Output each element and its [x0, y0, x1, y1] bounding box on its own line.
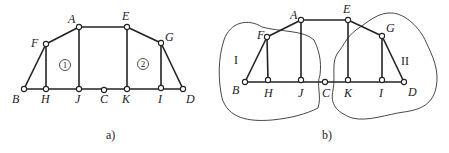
joint-I	[379, 77, 384, 82]
member-FA	[46, 27, 79, 44]
joint-B	[21, 86, 26, 91]
joint-label-K: K	[121, 92, 131, 106]
joint-label-J: J	[298, 86, 304, 100]
joint-label-I: I	[157, 92, 163, 106]
joint-label-H: H	[40, 92, 51, 106]
region-label-I: I	[234, 53, 238, 67]
joint-J	[76, 86, 81, 91]
joint-F	[264, 34, 269, 39]
joint-A	[298, 17, 303, 22]
joint-K	[124, 86, 129, 91]
joint-label-F: F	[256, 28, 265, 42]
joint-K	[345, 77, 350, 82]
caption-b: b)	[322, 128, 332, 142]
joint-label-C: C	[322, 86, 331, 100]
figure-a-truss: AEFGBHJCKID12	[12, 9, 195, 106]
panel-number-1: 1	[63, 60, 68, 70]
joint-F	[43, 41, 48, 46]
region-label-II: II	[401, 54, 409, 68]
joint-label-A: A	[67, 12, 76, 26]
joint-B	[242, 79, 247, 84]
joint-E	[345, 17, 350, 22]
member-EG	[127, 27, 161, 43]
joint-label-D: D	[407, 85, 417, 99]
member-BF	[245, 37, 267, 82]
member-EG	[348, 20, 382, 36]
joint-label-H: H	[263, 86, 274, 100]
joint-label-J: J	[75, 92, 81, 106]
truss-diagram: AEFGBHJCKID12 AEFGBHJCKIDIII a) b)	[0, 0, 449, 153]
joint-label-I: I	[378, 86, 384, 100]
joint-label-B: B	[12, 92, 20, 106]
joint-label-F: F	[30, 36, 39, 50]
member-FH	[267, 37, 268, 80]
joint-C	[322, 79, 327, 84]
joint-label-K: K	[343, 86, 353, 100]
member-BF	[24, 44, 46, 89]
joint-A	[76, 24, 81, 29]
caption-a: a)	[106, 128, 115, 142]
figure-b-truss-free-body: AEFGBHJCKIDIII	[219, 2, 437, 120]
joint-E	[124, 24, 129, 29]
joint-label-C: C	[100, 92, 109, 106]
joint-label-D: D	[185, 92, 195, 106]
joint-label-A: A	[289, 8, 298, 22]
joint-label-E: E	[342, 2, 351, 16]
joint-H	[43, 86, 48, 91]
member-GD	[161, 43, 183, 89]
joint-label-G: G	[386, 21, 395, 35]
joint-G	[158, 40, 163, 45]
joint-H	[265, 77, 270, 82]
joint-label-G: G	[165, 30, 174, 44]
joint-I	[158, 85, 163, 90]
member-FA	[267, 20, 301, 37]
joint-J	[298, 77, 303, 82]
joint-D	[401, 79, 406, 84]
joint-label-E: E	[121, 9, 130, 23]
joint-label-B: B	[232, 83, 240, 97]
joint-G	[379, 33, 384, 38]
joint-D	[180, 86, 185, 91]
panel-number-2: 2	[141, 59, 146, 69]
